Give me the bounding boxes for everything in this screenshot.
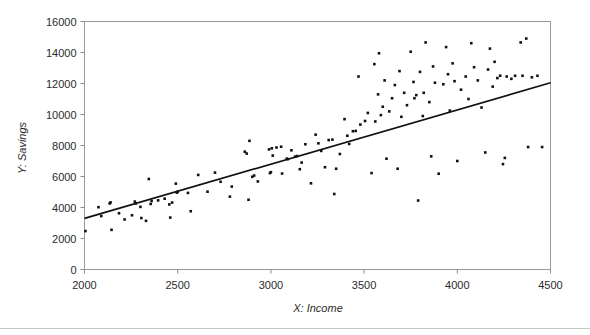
scatter-point <box>100 215 103 218</box>
scatter-point <box>298 168 301 171</box>
scatter-point <box>364 120 367 123</box>
scatter-point <box>521 74 524 77</box>
scatter-point <box>169 216 172 219</box>
scatter-point <box>335 167 338 170</box>
scatter-point <box>333 193 336 196</box>
scatter-point <box>406 104 409 107</box>
scatter-point <box>489 47 492 50</box>
scatter-point <box>354 130 357 133</box>
scatter-point <box>504 157 507 160</box>
y-axis-title: Y: Savings <box>16 121 28 174</box>
x-tick-label: 2000 <box>72 279 96 291</box>
scatter-point <box>519 41 522 44</box>
scatter-point <box>377 93 380 96</box>
scatter-point <box>84 230 87 233</box>
y-tick-label: 4000 <box>52 202 76 214</box>
scatter-point <box>378 52 381 55</box>
scatter-point <box>175 182 178 185</box>
scatter-point <box>110 229 113 232</box>
scatter-point <box>131 214 134 217</box>
scatter-point <box>413 97 416 100</box>
scatter-point <box>171 201 174 204</box>
scatter-point <box>157 199 160 202</box>
scatter-point <box>230 185 233 188</box>
y-tick-label: 16000 <box>46 16 77 28</box>
scatter-point <box>310 182 313 185</box>
scatter-point <box>280 145 283 148</box>
scatter-point <box>300 161 303 164</box>
scatter-point <box>150 200 153 203</box>
scatter-point <box>541 146 544 149</box>
x-tick-label: 3000 <box>259 279 283 291</box>
scatter-point <box>339 153 342 156</box>
scatter-point <box>456 160 459 163</box>
scatter-point <box>424 41 427 44</box>
x-tick-label: 4500 <box>538 279 562 291</box>
scatter-point <box>505 75 508 78</box>
scatter-point <box>480 106 483 109</box>
scatter-point <box>281 172 284 175</box>
scatter-point <box>415 94 418 97</box>
scatter-point <box>409 50 412 53</box>
scatter-point <box>331 138 334 141</box>
scatter-point <box>422 92 425 95</box>
scatter-point <box>373 63 376 66</box>
scatter-point <box>422 115 425 118</box>
scatter-point <box>189 210 192 213</box>
scatter-point <box>374 120 377 123</box>
scatter-point <box>496 77 499 80</box>
scatter-point <box>324 166 327 169</box>
scatter-point <box>493 61 496 64</box>
scatter-point <box>317 142 320 145</box>
scatter-point <box>453 80 456 83</box>
scatter-point <box>502 163 505 166</box>
scatter-point <box>381 105 384 108</box>
y-tick-label: 10000 <box>46 109 77 121</box>
scatter-point <box>357 75 360 78</box>
scatter-point <box>327 139 330 142</box>
scatter-point <box>460 88 463 91</box>
scatter-point <box>499 74 502 77</box>
x-axis-title: X: Income <box>292 302 343 314</box>
scatter-point <box>434 81 437 84</box>
scatter-point <box>219 180 222 183</box>
scatter-point <box>245 152 248 155</box>
scatter-point <box>304 143 307 146</box>
scatter-point <box>391 97 394 100</box>
scatter-plot-figure: 0200040006000800010000120001400016000 20… <box>0 0 590 335</box>
x-tick-label: 3500 <box>352 279 376 291</box>
scatter-point <box>428 101 431 104</box>
scatter-point <box>484 151 487 154</box>
scatter-point <box>380 114 383 117</box>
scatter-point <box>388 110 391 113</box>
scatter-point <box>385 157 388 160</box>
scatter-point <box>118 212 121 215</box>
scatter-point <box>247 198 250 201</box>
y-tick-label: 2000 <box>52 233 76 245</box>
scatter-point <box>514 74 517 77</box>
scatter-point <box>290 149 293 152</box>
scatter-point <box>268 148 271 151</box>
scatter-point <box>400 116 403 119</box>
scatter-point <box>348 143 351 146</box>
x-tick-label: 4000 <box>445 279 469 291</box>
scatter-point <box>275 146 278 149</box>
scatter-point <box>270 171 273 174</box>
scatter-point <box>396 167 399 170</box>
scatter-point <box>473 66 476 69</box>
scatter-point <box>139 206 142 209</box>
y-tick-label: 14000 <box>46 47 77 59</box>
scatter-point <box>168 203 171 206</box>
scatter-point <box>536 74 539 77</box>
scatter-point <box>398 70 401 73</box>
scatter-point <box>442 83 445 86</box>
y-tick-label: 8000 <box>52 140 76 152</box>
scatter-point <box>359 123 362 126</box>
scatter-point <box>370 172 373 175</box>
x-tick-label: 2500 <box>165 279 189 291</box>
scatter-point <box>525 37 528 40</box>
scatter-point <box>437 172 440 175</box>
scatter-point <box>527 146 530 149</box>
scatter-point <box>470 42 473 45</box>
scatter-point <box>149 203 152 206</box>
